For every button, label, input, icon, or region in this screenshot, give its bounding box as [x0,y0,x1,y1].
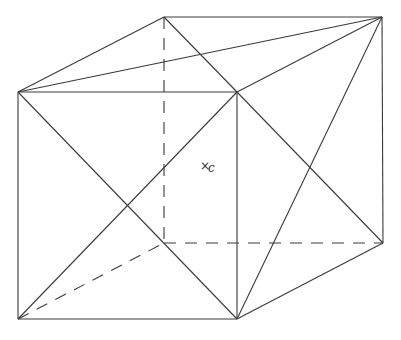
cube-edge [382,17,383,243]
cube-diagram: × c [0,0,401,340]
hidden-edge [18,243,164,319]
face-diagonal [237,17,382,319]
cube-edge [237,17,382,92]
face-diagonal [164,17,237,92]
cube-edge [18,17,164,92]
center-label: c [208,161,215,175]
cube-edge [237,243,383,319]
